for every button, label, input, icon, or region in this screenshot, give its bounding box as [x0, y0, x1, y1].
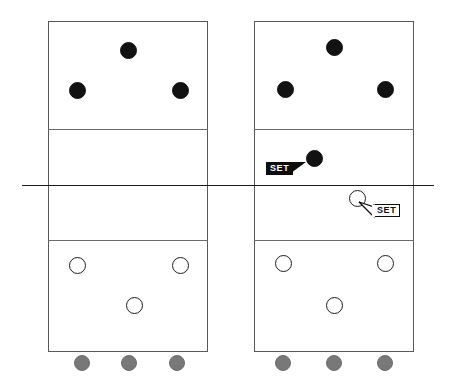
right-court-far-right-front-player[interactable] [377, 81, 394, 98]
left-court-far-right-front-player[interactable] [172, 82, 189, 99]
volleyball-diagram-canvas: SET SET [0, 0, 453, 391]
right-court-near-attack-line [254, 240, 414, 241]
left-court-near-middle-back-player[interactable] [126, 297, 143, 314]
left-court-far-attack-line [48, 129, 208, 130]
left-court-bench-player-1[interactable] [74, 355, 90, 371]
right-court-bench-player-1[interactable] [275, 355, 291, 371]
set-tag-near-tail [359, 202, 377, 218]
set-tag-near-label: SET [377, 206, 396, 215]
right-court-bench-player-2[interactable] [326, 355, 342, 371]
right-court-far-middle-front-player[interactable] [326, 39, 343, 56]
left-court-bench-player-3[interactable] [169, 355, 185, 371]
left-court-near-right-back-player[interactable] [172, 257, 189, 274]
right-court-near-middle-back-player[interactable] [326, 297, 343, 314]
net-line [22, 185, 434, 186]
set-tag-near[interactable]: SET [373, 204, 400, 217]
left-court-far-left-front-player[interactable] [69, 82, 86, 99]
left-court-far-middle-front-player[interactable] [120, 42, 137, 59]
right-court-far-left-front-player[interactable] [277, 81, 294, 98]
set-tag-far-tail [291, 162, 307, 176]
left-court-near-attack-line [48, 240, 208, 241]
right-court-far-attack-line [254, 129, 414, 130]
right-court-bench-player-3[interactable] [377, 355, 393, 371]
left-court-bench-player-2[interactable] [121, 355, 137, 371]
set-tag-far[interactable]: SET [266, 162, 293, 175]
right-court-far-setter-player[interactable] [306, 150, 323, 167]
set-tag-far-label: SET [270, 164, 289, 173]
right-court-near-right-back-player[interactable] [377, 255, 394, 272]
left-court-near-left-back-player[interactable] [69, 257, 86, 274]
right-court-near-left-back-player[interactable] [275, 255, 292, 272]
